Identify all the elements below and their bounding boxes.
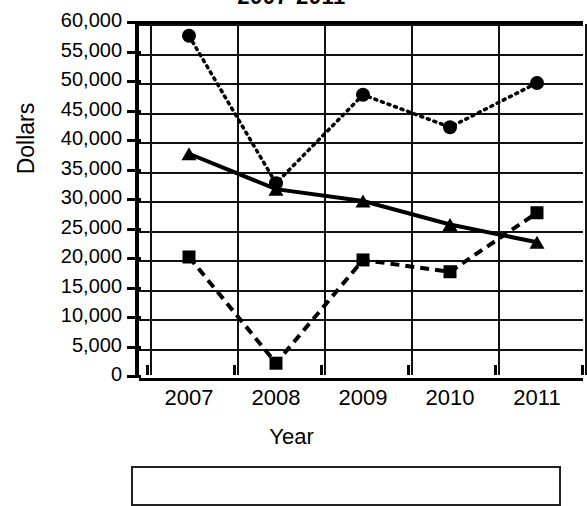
- x-tick-label: 2007: [165, 386, 214, 410]
- y-tick-mark: [127, 228, 141, 231]
- y-tick-label: 55,000: [18, 40, 122, 60]
- y-tick-label: 0: [18, 364, 122, 384]
- y-tick-mark: [127, 346, 141, 349]
- gridline-horizontal: [139, 172, 583, 174]
- y-tick-label: 50,000: [18, 69, 122, 89]
- y-tick-label: 30,000: [18, 187, 122, 207]
- x-tick-mark: [494, 365, 497, 375]
- x-tick-mark: [146, 365, 149, 375]
- y-tick-mark: [127, 287, 141, 290]
- x-tick-label: 2010: [426, 386, 475, 410]
- y-tick-label: 15,000: [18, 276, 122, 296]
- y-tick-label: 5,000: [18, 335, 122, 355]
- y-tick-mark: [127, 316, 141, 319]
- y-tick-mark: [127, 198, 141, 201]
- gridline-vertical: [237, 24, 239, 375]
- gridline-vertical: [411, 24, 413, 375]
- x-tick-mark: [320, 365, 323, 375]
- plot-area: [135, 21, 583, 375]
- gridline-vertical: [150, 24, 152, 375]
- y-tick-mark: [127, 110, 141, 113]
- x-tick-label: 2008: [252, 386, 301, 410]
- y-tick-label: 60,000: [18, 10, 122, 30]
- gridline-horizontal: [139, 231, 583, 233]
- gridline-vertical: [498, 24, 500, 375]
- y-tick-label: 10,000: [18, 305, 122, 325]
- gridline-vertical: [585, 24, 587, 375]
- y-tick-label: 20,000: [18, 246, 122, 266]
- gridline-horizontal: [139, 142, 583, 144]
- x-tick-mark: [233, 365, 236, 375]
- y-tick-mark: [127, 139, 141, 142]
- gridline-horizontal: [139, 260, 583, 262]
- x-tick-mark: [581, 365, 584, 375]
- x-axis-title: Year: [0, 424, 583, 450]
- y-tick-label: 35,000: [18, 158, 122, 178]
- y-tick-mark: [127, 21, 141, 24]
- gridline-horizontal: [139, 83, 583, 85]
- y-tick-mark: [127, 51, 141, 54]
- x-tick-label: 2009: [339, 386, 388, 410]
- gridline-horizontal: [139, 201, 583, 203]
- gridline-vertical: [324, 24, 326, 375]
- gridline-horizontal: [139, 24, 583, 26]
- y-tick-label: 25,000: [18, 217, 122, 237]
- gridline-horizontal: [139, 290, 583, 292]
- y-tick-mark: [127, 257, 141, 260]
- y-tick-mark: [127, 375, 141, 378]
- gridline-horizontal: [139, 319, 583, 321]
- gridline-horizontal: [139, 113, 583, 115]
- x-tick-label: 2011: [513, 386, 560, 410]
- x-tick-mark: [407, 365, 410, 375]
- gridline-horizontal: [139, 54, 583, 56]
- y-tick-mark: [127, 80, 141, 83]
- y-tick-label: 40,000: [18, 128, 122, 148]
- gridline-horizontal: [139, 378, 583, 381]
- y-tick-mark: [127, 169, 141, 172]
- y-tick-label: 45,000: [18, 99, 122, 119]
- legend-box: [131, 466, 561, 506]
- gridline-horizontal: [139, 349, 583, 351]
